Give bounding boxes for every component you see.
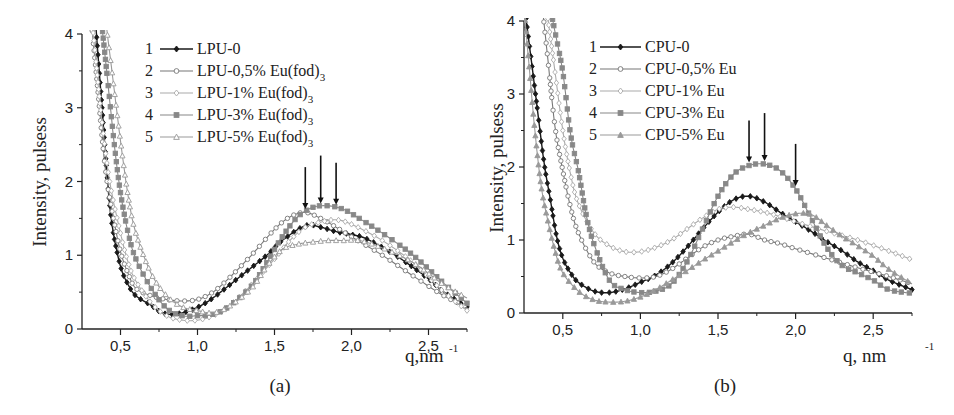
y-tick-label: 2 bbox=[507, 158, 515, 175]
legend-number: 1 bbox=[589, 38, 597, 55]
legend-label: LPU-0,5% Eu(fod)3 bbox=[197, 62, 326, 83]
series-4 bbox=[549, 0, 912, 295]
legend-item: 3CPU-1% Eu bbox=[589, 82, 725, 99]
peak-arrow bbox=[318, 156, 324, 204]
series-line bbox=[545, 0, 912, 260]
y-tick-label: 0 bbox=[507, 304, 515, 321]
series-markers bbox=[550, 17, 911, 295]
y-tick-label: 4 bbox=[65, 25, 73, 42]
legend-item: 5LPU-5% Eu(fod)3 bbox=[145, 128, 314, 149]
legend-number: 4 bbox=[145, 106, 153, 123]
series-line bbox=[101, 12, 468, 316]
series-5 bbox=[105, 12, 467, 315]
legend: 1CPU-02CPU-0,5% Eu3CPU-1% Eu4CPU-3% Eu5C… bbox=[589, 38, 737, 143]
x-axis-label-superscript: -1 bbox=[449, 342, 458, 354]
chart-panel-b: 012340,51,01,52,02,5Intensity, pulsessq,… bbox=[486, 0, 934, 397]
legend: 1LPU-02LPU-0,5% Eu(fod)33LPU-1% Eu(fod)3… bbox=[145, 40, 326, 149]
legend-item: 2LPU-0,5% Eu(fod)3 bbox=[145, 62, 326, 83]
legend-item: 2CPU-0,5% Eu bbox=[589, 60, 737, 77]
legend-label: CPU-0 bbox=[645, 38, 689, 55]
legend-number: 2 bbox=[145, 62, 153, 79]
x-tick-label: 1,0 bbox=[187, 337, 208, 354]
legend-label: LPU-0 bbox=[197, 40, 241, 57]
legend-item: 4LPU-3% Eu(fod)3 bbox=[145, 106, 314, 127]
y-tick-label: 2 bbox=[65, 173, 73, 190]
x-tick-label: 1,5 bbox=[264, 337, 285, 354]
peak-arrow bbox=[302, 167, 308, 209]
legend-item: 1LPU-0 bbox=[145, 40, 241, 57]
x-axis-label-superscript: -1 bbox=[925, 340, 934, 352]
legend-number: 3 bbox=[145, 84, 153, 101]
series-3 bbox=[545, 0, 912, 262]
legend-number: 1 bbox=[145, 40, 153, 57]
legend-label: LPU-1% Eu(fod)3 bbox=[197, 84, 314, 105]
peak-arrow bbox=[793, 144, 799, 186]
series-2 bbox=[542, 0, 913, 285]
legend-label: CPU-3% Eu bbox=[645, 104, 725, 121]
plot-area bbox=[522, 0, 914, 304]
figure: 012340,51,01,52,02,5Intensity, pulsessq,… bbox=[0, 0, 954, 415]
legend-label: LPU-5% Eu(fod)3 bbox=[197, 128, 314, 149]
series-4 bbox=[100, 12, 469, 319]
legend-number: 3 bbox=[589, 82, 597, 99]
legend-number: 5 bbox=[589, 126, 597, 143]
legend-item: 5CPU-5% Eu bbox=[589, 126, 725, 143]
legend-label: LPU-3% Eu(fod)3 bbox=[197, 106, 314, 127]
peak-arrow bbox=[333, 163, 339, 205]
legend-label: CPU-5% Eu bbox=[645, 126, 725, 143]
x-tick-label: 1,5 bbox=[708, 321, 729, 338]
plot-area bbox=[90, 12, 469, 324]
legend-label: CPU-0,5% Eu bbox=[645, 60, 737, 77]
peak-arrow bbox=[746, 121, 752, 163]
peak-arrow bbox=[762, 113, 768, 161]
x-tick-label: 1,0 bbox=[630, 321, 651, 338]
y-tick-label: 1 bbox=[507, 231, 515, 248]
y-tick-label: 3 bbox=[65, 99, 73, 116]
x-tick-label: 2,0 bbox=[341, 337, 362, 354]
panel-label: (b) bbox=[714, 375, 736, 397]
panel-label: (a) bbox=[269, 375, 290, 397]
legend-label: CPU-1% Eu bbox=[645, 82, 725, 99]
y-tick-label: 4 bbox=[507, 12, 515, 29]
legend-number: 2 bbox=[589, 60, 597, 77]
x-tick-label: 0,5 bbox=[552, 321, 573, 338]
y-axis-label: Intensity, pulsess bbox=[486, 103, 507, 233]
legend-item: 1CPU-0 bbox=[589, 38, 689, 55]
x-tick-label: 2,0 bbox=[785, 321, 806, 338]
legend-item: 4CPU-3% Eu bbox=[589, 104, 725, 121]
y-tick-label: 1 bbox=[65, 246, 73, 263]
chart-panel-a: 012340,51,01,52,02,5Intensity, pulsessq,… bbox=[29, 12, 469, 397]
series-markers bbox=[546, 16, 912, 262]
y-tick-label: 0 bbox=[65, 320, 73, 337]
x-axis-label: q, nm bbox=[843, 345, 887, 366]
legend-number: 5 bbox=[145, 128, 153, 145]
legend-number: 4 bbox=[589, 104, 597, 121]
x-tick-label: 0,5 bbox=[110, 337, 131, 354]
x-tick-label: 2,5 bbox=[863, 321, 884, 338]
y-tick-label: 3 bbox=[507, 85, 515, 102]
x-axis-label: q,nm bbox=[405, 345, 444, 366]
y-axis-label: Intensity, pulsess bbox=[29, 117, 50, 247]
legend-item: 3LPU-1% Eu(fod)3 bbox=[145, 84, 314, 105]
